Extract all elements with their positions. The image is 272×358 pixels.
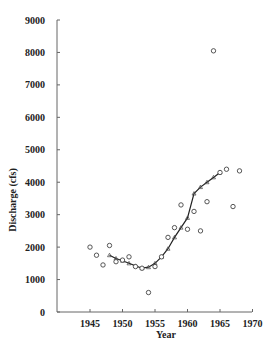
y-tick-label: 2000 bbox=[25, 242, 45, 253]
data-point bbox=[120, 258, 124, 262]
x-tick-label: 1960 bbox=[178, 318, 198, 329]
y-axis-title: Discharge (cfs) bbox=[7, 168, 19, 232]
data-point bbox=[166, 235, 170, 239]
data-point bbox=[94, 253, 98, 257]
data-point bbox=[114, 260, 118, 264]
y-tick-label: 8000 bbox=[25, 47, 45, 58]
y-tick-label: 5000 bbox=[25, 144, 45, 155]
discharge-chart: 0100020003000400050006000700080009000 19… bbox=[0, 0, 272, 358]
data-point bbox=[153, 264, 157, 268]
data-point bbox=[192, 209, 196, 213]
y-tick-label: 9000 bbox=[25, 15, 45, 26]
y-tick-label: 6000 bbox=[25, 112, 45, 123]
trend-marker bbox=[108, 253, 112, 257]
data-point bbox=[101, 263, 105, 267]
data-point bbox=[159, 255, 163, 259]
data-point bbox=[231, 204, 235, 208]
data-point bbox=[88, 245, 92, 249]
y-tick-label: 3000 bbox=[25, 209, 45, 220]
data-point bbox=[172, 225, 176, 229]
data-point bbox=[107, 243, 111, 247]
data-point bbox=[224, 167, 228, 171]
data-point bbox=[211, 49, 215, 53]
trend-polyline bbox=[110, 173, 221, 269]
y-axis: 0100020003000400050006000700080009000 bbox=[25, 15, 60, 318]
data-point bbox=[218, 170, 222, 174]
x-tick-label: 1950 bbox=[113, 318, 133, 329]
x-axis: 194519501955196019651970 bbox=[57, 309, 263, 329]
data-point bbox=[146, 290, 150, 294]
data-point bbox=[179, 203, 183, 207]
data-point bbox=[127, 255, 131, 259]
y-tick-label: 1000 bbox=[25, 274, 45, 285]
data-point bbox=[185, 227, 189, 231]
data-point bbox=[198, 229, 202, 233]
y-tick-label: 0 bbox=[40, 307, 45, 318]
data-point bbox=[237, 169, 241, 173]
x-tick-label: 1945 bbox=[80, 318, 100, 329]
y-tick-label: 4000 bbox=[25, 177, 45, 188]
x-tick-label: 1970 bbox=[243, 318, 263, 329]
scatter-points bbox=[88, 49, 242, 295]
y-tick-label: 7000 bbox=[25, 79, 45, 90]
data-point bbox=[205, 199, 209, 203]
x-tick-label: 1965 bbox=[210, 318, 230, 329]
x-tick-label: 1955 bbox=[145, 318, 165, 329]
x-axis-title: Year bbox=[156, 329, 177, 340]
data-point bbox=[140, 266, 144, 270]
data-point bbox=[133, 264, 137, 268]
trend-line bbox=[108, 170, 223, 269]
